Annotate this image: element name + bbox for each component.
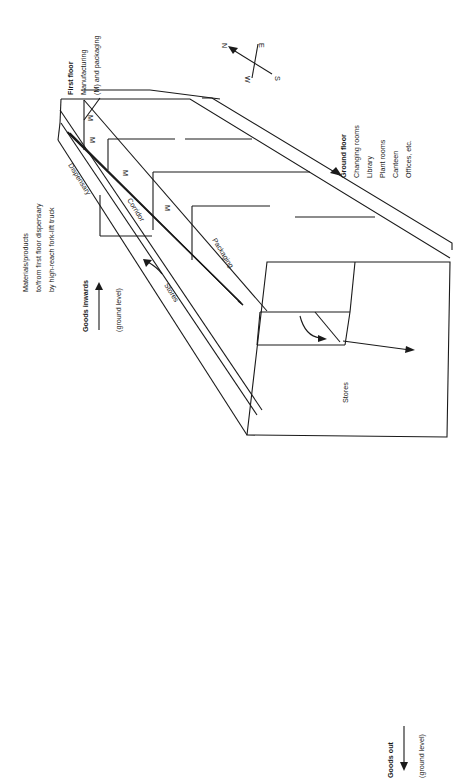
ground-floor-item: Library xyxy=(365,156,374,178)
goods-inwards-label: Goods inwards (ground level) xyxy=(81,280,123,332)
compass-n: N xyxy=(220,43,229,48)
ground-floor-item: Changing rooms xyxy=(352,125,361,178)
first-floor-label: First floor Manufacturing (M) and packag… xyxy=(66,35,101,95)
goods-inwards-heading: Goods inwards xyxy=(81,280,90,332)
room-stores-lower: Stores xyxy=(341,382,350,403)
goods-inwards-sub: (ground level) xyxy=(114,288,123,332)
forklift-note-line3: by high-reach fork-lift truck xyxy=(47,207,56,292)
goods-out-label: Goods out (ground level) xyxy=(386,726,426,778)
goods-out-arrow-icon xyxy=(400,762,408,771)
goods-in-internal-arrow-icon xyxy=(143,259,152,267)
room-stores-upper: Stores xyxy=(162,281,181,304)
room-m-4: M xyxy=(163,205,172,211)
room-m-3: M xyxy=(121,170,130,176)
room-m-1: M xyxy=(86,115,95,121)
compass-s: S xyxy=(273,76,282,81)
room-dispensary: Dispensary xyxy=(66,161,93,197)
goods-inwards-arrow-icon xyxy=(95,282,103,290)
forklift-note: Materials/products to/from first floor d… xyxy=(21,203,56,292)
room-m-2: M xyxy=(88,137,97,143)
ground-floor-item: Canteen xyxy=(391,151,400,178)
transfer-arrow-icon xyxy=(318,335,327,342)
building xyxy=(58,90,452,437)
compass-e: E xyxy=(257,43,266,48)
compass: N E W S xyxy=(220,43,282,83)
ground-floor-label: Ground floor Changing rooms Library Plan… xyxy=(330,125,413,178)
room-packaging: Packaging xyxy=(210,236,235,269)
first-floor-line2: (M) and packaging xyxy=(92,35,101,95)
factory-layout-diagram: N E W S First floor Manufacturing (M) an… xyxy=(0,0,465,778)
goods-out-heading: Goods out xyxy=(386,741,395,778)
compass-w: W xyxy=(243,76,252,83)
first-floor-heading: First floor xyxy=(66,61,75,95)
goods-out-sub: (ground level) xyxy=(417,734,426,778)
ground-floor-heading: Ground floor xyxy=(339,134,348,178)
forklift-note-line1: Materials/products xyxy=(21,233,30,292)
ground-floor-item: Plant rooms xyxy=(378,139,387,178)
first-floor-line1: Manufacturing xyxy=(79,49,88,95)
goods-out-internal-arrow-icon xyxy=(405,346,415,353)
forklift-note-line2: to/from first floor dispensary xyxy=(34,203,43,292)
ground-floor-item: Offices, etc. xyxy=(404,140,413,178)
room-labels: M M M M Dispensary Corridor Packaging St… xyxy=(66,115,350,403)
room-corridor: Corridor xyxy=(125,196,147,223)
